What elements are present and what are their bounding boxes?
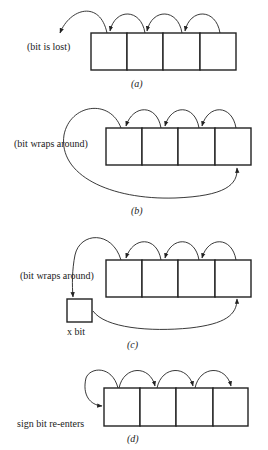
shift-arrow	[195, 370, 231, 388]
shift-arrow	[202, 110, 236, 128]
shift-arrow	[157, 370, 193, 388]
cell	[142, 128, 178, 165]
cell	[215, 260, 251, 297]
register-c	[106, 260, 251, 297]
cell	[140, 388, 176, 426]
panel-b: (bit wraps around) (b)	[14, 108, 251, 217]
panel-b-caption: (b)	[131, 205, 143, 217]
shift-arrow	[165, 110, 199, 128]
shift-arrow	[202, 242, 236, 260]
panel-a-caption: (a)	[131, 78, 143, 90]
cell	[178, 128, 215, 165]
cell	[215, 128, 251, 165]
x-bit-label: x bit	[67, 326, 85, 337]
panel-a: (bit is lost) (a)	[27, 11, 236, 90]
x-bit-box	[67, 299, 92, 322]
panel-d-label: sign bit re-enters	[17, 418, 84, 429]
panel-c-label: (bit wraps around)	[20, 270, 94, 282]
shift-arrow	[126, 110, 161, 128]
shift-arrow	[165, 242, 199, 260]
register-b	[106, 128, 251, 165]
cell	[106, 260, 142, 297]
cell	[213, 388, 248, 426]
panel-d: sign bit re-enters (d)	[17, 370, 248, 445]
shift-arrow	[185, 14, 220, 33]
panel-d-caption: (d)	[127, 433, 139, 445]
cell	[163, 33, 200, 70]
shift-register-diagram: (bit is lost) (a) (bit wraps around) (b)	[0, 0, 268, 450]
panel-a-label: (bit is lost)	[27, 41, 70, 53]
shift-arrow	[110, 14, 145, 33]
shift-arrow	[126, 242, 161, 260]
cell	[91, 33, 127, 70]
panel-c: (bit wraps around) x bit (c)	[20, 238, 251, 351]
panel-c-caption: (c)	[127, 339, 139, 351]
register-d	[104, 388, 248, 426]
shift-arrow	[147, 14, 182, 33]
cell	[142, 260, 178, 297]
cell	[178, 260, 215, 297]
cell	[127, 33, 163, 70]
from-x-bit-arrow	[93, 299, 237, 329]
cell	[104, 388, 140, 426]
shift-arrow	[119, 370, 155, 388]
cell	[200, 33, 236, 70]
lost-bit-arrow	[60, 11, 107, 33]
cell	[106, 128, 142, 165]
cell	[176, 388, 213, 426]
panel-b-label: (bit wraps around)	[14, 138, 88, 150]
register-a	[91, 33, 236, 70]
